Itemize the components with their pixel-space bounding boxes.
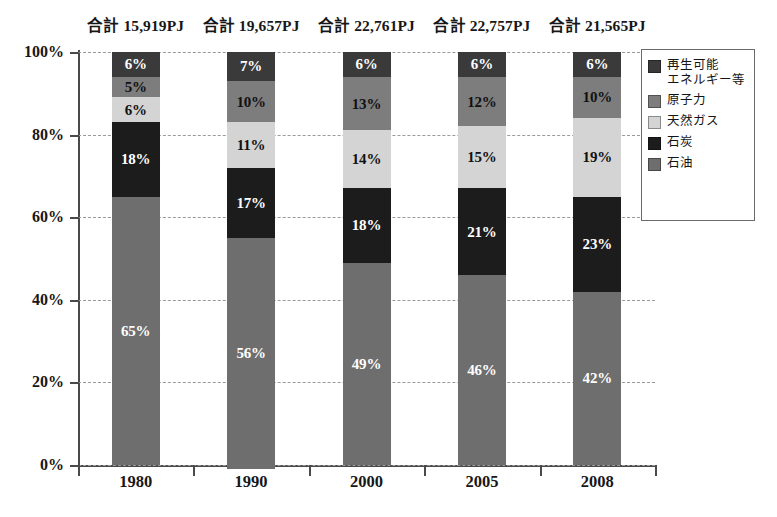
bar-segment: 49%	[343, 263, 391, 465]
bar-total-label: 合計 22,761PJ	[318, 13, 415, 35]
bar-segment-value-label: 65%	[121, 324, 150, 339]
legend-item-label: 石油	[667, 155, 693, 170]
y-axis-tick-mark	[70, 135, 79, 137]
bar-segment-value-label: 6%	[471, 57, 493, 72]
bar-segment: 6%	[112, 52, 160, 77]
x-axis-tick-label: 1990	[235, 472, 268, 492]
legend-color-swatch-icon	[648, 95, 661, 108]
stacked-bar-chart: 合計 15,919PJ合計 19,657PJ合計 22,761PJ合計 22,7…	[0, 0, 777, 517]
bar-segment-value-label: 6%	[125, 57, 147, 72]
bar-segment-value-label: 49%	[352, 357, 381, 372]
bar-segment-value-label: 56%	[236, 346, 265, 361]
bar-segment: 14%	[343, 130, 391, 188]
x-axis-tick-mark	[78, 465, 80, 476]
bar-column: 6%5%6%18%65%	[112, 52, 160, 465]
legend-item[interactable]: 石炭	[642, 134, 754, 150]
x-axis-tick-label: 2005	[465, 472, 498, 492]
bar-segment-value-label: 15%	[467, 150, 496, 165]
bar-segment: 6%	[573, 52, 621, 77]
bar-segment: 10%	[573, 77, 621, 118]
bar-segment-value-label: 21%	[467, 225, 496, 240]
y-axis-tick-mark	[70, 217, 79, 219]
bar-segment: 15%	[458, 126, 506, 188]
legend-item[interactable]: 再生可能 エネルギー等	[642, 57, 754, 87]
x-axis-tick-mark	[655, 465, 657, 476]
bar-segment: 12%	[458, 77, 506, 127]
bar-segment-value-label: 7%	[240, 59, 262, 74]
bar-segment: 10%	[227, 81, 275, 122]
y-axis-tick-label: 80%	[0, 126, 64, 144]
y-axis-tick-label: 40%	[0, 291, 64, 309]
bar-segment-value-label: 6%	[586, 57, 608, 72]
bar-segment-value-label: 6%	[125, 103, 147, 118]
bar-column: 7%10%11%17%56%	[227, 52, 275, 465]
legend-color-swatch-icon	[648, 116, 661, 129]
y-axis-tick-label: 0%	[0, 456, 64, 474]
bar-segment: 7%	[227, 52, 275, 81]
bar-segment-value-label: 23%	[583, 237, 612, 252]
bar-segment: 18%	[112, 122, 160, 196]
gridline	[78, 465, 655, 466]
legend-item-label: 再生可能 エネルギー等	[667, 57, 745, 87]
legend-color-swatch-icon	[648, 60, 661, 73]
bar-segment-value-label: 14%	[352, 152, 381, 167]
totals-annotation-row: 合計 15,919PJ合計 19,657PJ合計 22,761PJ合計 22,7…	[0, 0, 777, 38]
bar-total-label: 合計 15,919PJ	[87, 13, 184, 35]
bar-total-label: 合計 19,657PJ	[203, 13, 300, 35]
legend-item[interactable]: 天然ガス	[642, 113, 754, 129]
x-axis-tick-mark	[424, 465, 426, 476]
legend-item-label: 石炭	[667, 134, 693, 149]
x-axis-tick-label: 2000	[350, 472, 383, 492]
bar-segment: 11%	[227, 122, 275, 167]
y-axis-tick-mark	[70, 52, 79, 54]
bar-segment: 56%	[227, 238, 275, 469]
y-axis-tick-label: 20%	[0, 373, 64, 391]
bar-segment-value-label: 5%	[125, 80, 147, 95]
bar-segment-value-label: 42%	[583, 371, 612, 386]
bar-segment: 6%	[458, 52, 506, 77]
legend-item[interactable]: 原子力	[642, 92, 754, 108]
bar-segment: 6%	[112, 97, 160, 122]
bar-segment-value-label: 6%	[355, 57, 377, 72]
x-axis-tick-mark	[309, 465, 311, 476]
bar-segment: 65%	[112, 197, 160, 465]
bar-segment-value-label: 19%	[583, 150, 612, 165]
bar-segment: 46%	[458, 275, 506, 465]
y-axis-tick-mark	[70, 382, 79, 384]
y-axis-tick-label: 100%	[0, 43, 64, 61]
bar-segment-value-label: 17%	[236, 196, 265, 211]
bar-segment: 13%	[343, 77, 391, 131]
bar-segment-value-label: 10%	[583, 90, 612, 105]
bar-segment-value-label: 18%	[121, 152, 150, 167]
bar-segment: 6%	[343, 52, 391, 77]
bar-segment-value-label: 10%	[236, 95, 265, 110]
legend-item-label: 原子力	[667, 92, 706, 107]
legend-color-swatch-icon	[648, 137, 661, 150]
legend-item-label: 天然ガス	[667, 113, 719, 128]
y-axis-tick-mark	[70, 300, 79, 302]
bar-segment: 18%	[343, 188, 391, 262]
bar-segment: 42%	[573, 292, 621, 465]
bar-segment: 19%	[573, 118, 621, 196]
bar-column: 6%13%14%18%49%	[343, 52, 391, 465]
x-axis-tick-mark	[540, 465, 542, 476]
legend-item[interactable]: 石油	[642, 155, 754, 171]
x-axis-tick-label: 1980	[119, 472, 152, 492]
bar-column: 6%12%15%21%46%	[458, 52, 506, 465]
bar-segment: 23%	[573, 197, 621, 292]
bar-total-label: 合計 21,565PJ	[549, 13, 646, 35]
bar-segment: 17%	[227, 168, 275, 238]
bar-column: 6%10%19%23%42%	[573, 52, 621, 465]
bar-segment-value-label: 11%	[237, 138, 266, 153]
y-axis-tick-label: 60%	[0, 208, 64, 226]
chart-legend: 再生可能 エネルギー等原子力天然ガス石炭石油	[641, 49, 755, 221]
legend-color-swatch-icon	[648, 158, 661, 171]
bar-segment-value-label: 18%	[352, 218, 381, 233]
x-axis-tick-mark	[193, 465, 195, 476]
bar-segment-value-label: 46%	[467, 363, 496, 378]
bar-total-label: 合計 22,757PJ	[433, 13, 530, 35]
plot-area: 6%5%6%18%65%7%10%11%17%56%6%13%14%18%49%…	[78, 52, 655, 465]
bar-segment: 21%	[458, 188, 506, 275]
bar-segment: 5%	[112, 77, 160, 98]
bar-segment-value-label: 13%	[352, 97, 381, 112]
